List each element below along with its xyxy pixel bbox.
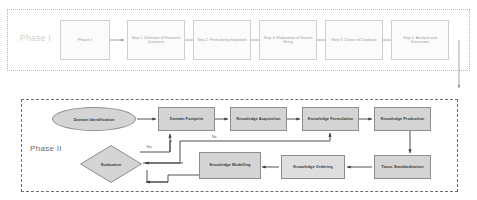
node-evaluation[interactable]: Evaluation [80,145,142,183]
node-knowledge-modelling[interactable]: Knowledge Modelling [199,152,261,179]
edge-label-no: No [212,135,217,139]
node-domain-footprint[interactable]: Domain Footprint [158,107,215,131]
node-step-4[interactable]: Step 4: Choice of Database [325,20,383,60]
edge-label-yes: Yes [146,145,152,149]
flowchart-diagram: Phase I Phase I Step 1: Definition of Re… [0,0,477,200]
node-step-3[interactable]: Step 3: Elaboration of Search String [259,20,317,60]
node-step-1[interactable]: Step 1: Definition of Research Questions [127,20,185,60]
node-knowledge-acquisition[interactable]: Knowledge Acquisition [230,107,287,131]
phase-two-label: Phase II [30,144,62,153]
node-taxos-standardization[interactable]: Taxos Standardization [374,155,431,179]
node-step-5[interactable]: Step 5: Analysis and Discussion [391,20,449,60]
phase-one-label: Phase I [20,33,51,43]
node-evaluation-label: Evaluation [80,145,142,183]
node-domain-identification[interactable]: Domain Identification [52,107,136,131]
node-step-2[interactable]: Step 2: Formulating Keywords [193,20,251,60]
node-knowledge-production[interactable]: Knowledge Production [374,107,431,131]
node-knowledge-ordering[interactable]: Knowledge Ordering [281,155,345,179]
node-phase-one[interactable]: Phase I [60,20,110,60]
node-knowledge-formulation[interactable]: Knowledge Formulation [302,107,359,131]
